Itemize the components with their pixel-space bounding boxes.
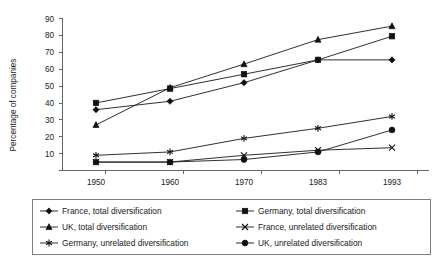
square-marker — [389, 34, 394, 39]
x-tick-label: 1960 — [161, 178, 180, 187]
legend-label: UK, total diversification — [62, 222, 148, 232]
square-marker — [241, 72, 246, 77]
legend-item[interactable]: UK, unrelated diversification — [236, 238, 363, 248]
legend: France, total diversificationGermany, to… — [40, 206, 377, 248]
diamond-marker — [93, 107, 99, 113]
circle-marker — [167, 159, 173, 165]
y-tick-label: 50 — [45, 82, 55, 91]
x-tick-label: 1983 — [309, 178, 328, 187]
diamond-marker — [167, 98, 173, 104]
series-4 — [93, 113, 395, 159]
circle-marker — [389, 127, 395, 133]
series-5 — [93, 127, 395, 165]
y-tick-label: 90 — [45, 15, 55, 24]
legend-label: Germany, unrelated diversification — [62, 238, 189, 248]
triangle-marker — [389, 23, 395, 29]
y-tick-label: 20 — [45, 133, 55, 142]
diamond-marker — [46, 208, 52, 214]
chart-figure: Percentage of companies 90 80 70 60 50 4… — [0, 0, 436, 263]
x-tick-label: 1950 — [87, 178, 106, 187]
legend-label: France, total diversification — [62, 206, 162, 216]
legend-label: Germany, total diversification — [258, 206, 366, 216]
y-tick-label: 60 — [45, 65, 55, 74]
legend-label: UK, unrelated diversification — [258, 238, 363, 248]
square-marker — [242, 208, 247, 213]
y-tick-label: 10 — [45, 150, 55, 159]
triangle-marker — [93, 122, 99, 128]
x-axis-ticks — [105, 171, 417, 175]
circle-marker — [93, 159, 99, 165]
y-tick-label: 30 — [45, 116, 55, 125]
series-layer — [93, 23, 395, 165]
y-axis-tick-labels: 90 80 70 60 50 40 30 20 10 — [45, 15, 55, 159]
diamond-marker — [241, 80, 247, 86]
circle-marker — [315, 149, 321, 155]
circle-marker — [242, 240, 248, 246]
legend-item[interactable]: Germany, unrelated diversification — [40, 238, 189, 248]
circle-marker — [241, 157, 247, 163]
x-axis-tick-labels: 1950 1960 1970 1983 1993 — [87, 178, 402, 187]
series-1 — [93, 34, 394, 106]
line-chart: Percentage of companies 90 80 70 60 50 4… — [0, 0, 436, 263]
legend-label: France, unrelated diversification — [258, 222, 377, 232]
y-tick-label: 80 — [45, 31, 55, 40]
legend-item[interactable]: Germany, total diversification — [236, 206, 366, 216]
y-tick-label: 40 — [45, 99, 55, 108]
x-tick-label: 1970 — [235, 178, 254, 187]
y-axis-ticks — [59, 19, 63, 171]
y-axis-title: Percentage of companies — [9, 59, 18, 152]
square-marker — [315, 57, 320, 62]
legend-item[interactable]: UK, total diversification — [40, 222, 148, 232]
square-marker — [93, 100, 98, 105]
y-tick-label: 70 — [45, 48, 55, 57]
diamond-marker — [389, 57, 395, 63]
legend-item[interactable]: France, total diversification — [40, 206, 162, 216]
legend-item[interactable]: France, unrelated diversification — [236, 222, 377, 232]
x-tick-label: 1993 — [383, 178, 402, 187]
